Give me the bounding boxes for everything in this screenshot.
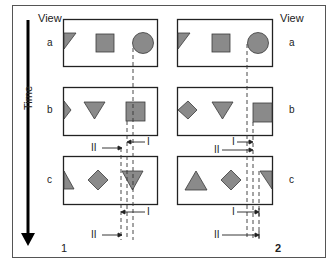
view-label-left: View bbox=[38, 13, 62, 24]
row-label-b-right: b bbox=[289, 105, 295, 115]
row-label-c-left: c bbox=[47, 175, 52, 185]
marker-I-p1-b: I bbox=[147, 137, 150, 147]
panel-1-view-a bbox=[64, 20, 158, 67]
panel-1-label: 1 bbox=[61, 243, 67, 254]
square-shape bbox=[126, 102, 145, 121]
panel-1-view-b bbox=[64, 88, 158, 136]
square-shape bbox=[96, 34, 114, 52]
row-label-a-right: a bbox=[289, 38, 295, 48]
view-label-right: View bbox=[280, 13, 304, 24]
view-frame bbox=[64, 157, 158, 205]
panel-2 bbox=[178, 20, 273, 241]
panel-1-view-c bbox=[64, 157, 158, 205]
marker-I-p2-c: I bbox=[232, 207, 235, 217]
panel-2-view-c bbox=[178, 157, 273, 205]
marker-II-p2-c: II bbox=[214, 230, 220, 240]
marker-II-p2-b: II bbox=[214, 145, 220, 155]
clipped-square-shape bbox=[253, 103, 272, 122]
circle-shape bbox=[133, 33, 154, 54]
marker-II-p1-b: II bbox=[91, 143, 97, 153]
panel-2-view-a bbox=[178, 20, 273, 67]
circle-shape bbox=[248, 33, 269, 54]
panel-2-label: 2 bbox=[275, 243, 281, 254]
panel-2-view-b bbox=[178, 88, 273, 136]
marker-I-p1-c: I bbox=[147, 207, 150, 217]
time-arrow-icon bbox=[21, 20, 35, 246]
marker-II-p1-c: II bbox=[91, 230, 97, 240]
row-label-a-left: a bbox=[47, 38, 53, 48]
square-shape bbox=[212, 34, 230, 52]
outer-frame bbox=[13, 6, 326, 258]
panel-1 bbox=[64, 20, 158, 241]
marker-I-p2-b: I bbox=[232, 137, 235, 147]
row-label-c-right: c bbox=[289, 175, 294, 185]
time-label: Time bbox=[23, 86, 34, 110]
row-label-b-left: b bbox=[47, 105, 53, 115]
diagram-stage: View View a b c a b c Time I II I II I I… bbox=[0, 0, 329, 264]
